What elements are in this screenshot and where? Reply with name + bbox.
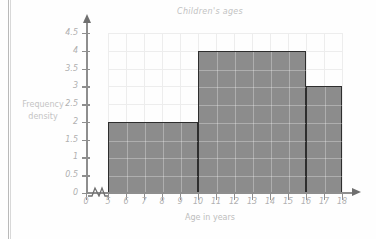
y-axis-tick	[82, 51, 90, 52]
x-axis-tick-label: 0	[77, 197, 95, 206]
y-axis-tick-label: 3	[48, 81, 78, 90]
histogram-bar	[108, 122, 198, 193]
x-axis-tick-label: 13	[243, 197, 261, 206]
gridline-horizontal-overlay	[199, 70, 307, 71]
x-axis-tick-label: 8	[153, 197, 171, 206]
x-axis-tick-label: 12	[225, 197, 243, 206]
y-axis-arrow-icon	[83, 14, 91, 23]
y-axis-tick-label: 0.5	[48, 170, 78, 179]
x-axis-break-icon	[88, 185, 108, 197]
y-axis-tick	[82, 175, 90, 176]
y-axis-tick-label: 4	[48, 46, 78, 55]
gridline-horizontal-overlay	[199, 158, 307, 159]
gridline-horizontal-overlay	[199, 87, 307, 88]
y-axis-tick	[82, 157, 90, 158]
y-axis-tick-label: 0	[48, 188, 78, 197]
x-axis-tick-label: 7	[135, 197, 153, 206]
gridline-vertical	[342, 33, 343, 193]
gridline-horizontal-overlay	[307, 105, 343, 106]
gridline-horizontal-overlay	[109, 176, 199, 177]
x-axis-tick-label: 15	[279, 197, 297, 206]
x-axis-label: Age in years	[150, 213, 270, 222]
chart-title: Children's ages	[130, 7, 290, 16]
y-axis-tick	[82, 140, 90, 141]
y-axis-label-line2: density	[28, 112, 57, 121]
histogram-bar	[306, 86, 342, 193]
gridline-horizontal-overlay	[109, 141, 199, 142]
y-axis-tick	[82, 122, 90, 123]
x-axis-tick-label: 6	[117, 197, 135, 206]
gridline-horizontal-overlay	[307, 123, 343, 124]
x-axis-tick-label: 9	[171, 197, 189, 206]
gridline-horizontal-overlay	[199, 105, 307, 106]
x-axis-tick-label: 17	[315, 197, 333, 206]
gridline-horizontal-overlay	[199, 176, 307, 177]
gridline-horizontal-overlay	[307, 141, 343, 142]
y-axis-tick	[82, 104, 90, 105]
gridline-horizontal-overlay	[109, 158, 199, 159]
worksheet-page: Children's ages 00.511.522.533.544.50567…	[0, 0, 376, 239]
gridline-horizontal-overlay	[199, 141, 307, 142]
y-axis-tick	[82, 33, 90, 34]
x-axis-arrow-icon	[352, 188, 361, 196]
gridline-horizontal-overlay	[307, 176, 343, 177]
gridline-horizontal-overlay	[199, 123, 307, 124]
x-axis-tick-label: 11	[207, 197, 225, 206]
y-axis-label: Frequency density	[14, 99, 72, 123]
y-axis-line	[86, 22, 88, 194]
x-axis-tick-label: 14	[261, 197, 279, 206]
x-axis-tick-label: 10	[189, 197, 207, 206]
gridline-horizontal	[108, 33, 342, 34]
histogram-bar	[198, 51, 306, 193]
plot-area	[108, 33, 342, 193]
histogram-chart: Children's ages 00.511.522.533.544.50567…	[0, 0, 376, 239]
y-axis-tick-label: 1	[48, 152, 78, 161]
y-axis-tick-label: 1.5	[48, 135, 78, 144]
y-axis-tick-label: 3.5	[48, 64, 78, 73]
y-axis-tick	[82, 86, 90, 87]
x-axis-tick-label: 18	[333, 197, 351, 206]
x-axis-tick-label: 16	[297, 197, 315, 206]
x-axis-tick-label: 5	[99, 197, 117, 206]
y-axis-label-line1: Frequency	[22, 100, 63, 109]
y-axis-tick-label: 4.5	[48, 28, 78, 37]
y-axis-tick	[82, 69, 90, 70]
gridline-horizontal-overlay	[307, 158, 343, 159]
